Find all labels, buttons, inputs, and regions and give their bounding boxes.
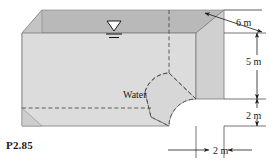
tank-top-face <box>22 10 224 33</box>
dimension-label-6m: 6 m <box>236 18 251 28</box>
dimension-label-2m-vertical: 2 m <box>246 111 261 121</box>
dimension-label-5m: 5 m <box>246 57 261 67</box>
water-label: Water <box>123 90 147 100</box>
dimension-label-2m-horizontal: 2 m <box>213 146 228 156</box>
figure-container: 6 m 5 m 2 m 2 m Water P2.85 <box>0 0 276 167</box>
tank-diagram-svg <box>0 0 276 167</box>
problem-number-label: P2.85 <box>6 140 33 151</box>
dimension-2m-horizontal <box>168 126 252 158</box>
